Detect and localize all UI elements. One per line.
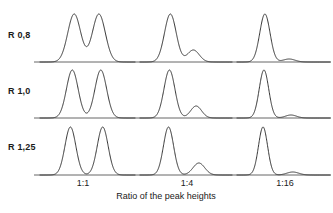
traces-group xyxy=(40,14,330,175)
trace-R125-1-1 xyxy=(40,127,135,175)
chromatogram-resolution-figure: R 0,8 R 1,0 R 1,25 1:1 1:4 1:16 Ratio of… xyxy=(0,0,333,213)
row-label-resolution-0: R 0,8 xyxy=(8,30,31,40)
row-label-resolution-2: R 1,25 xyxy=(8,142,36,152)
trace-R125-1-16 xyxy=(237,127,330,175)
x-axis-tick-label-2: 1:16 xyxy=(276,178,294,188)
trace-R10-1-4 xyxy=(140,70,232,118)
trace-R125-1-4 xyxy=(140,127,232,175)
trace-R10-1-16 xyxy=(237,70,330,118)
row-label-resolution-1: R 1,0 xyxy=(8,86,31,96)
x-axis-tick-label-1: 1:4 xyxy=(181,178,194,188)
trace-R08-1-16 xyxy=(237,14,330,62)
x-axis-tick-label-0: 1:1 xyxy=(77,178,90,188)
trace-R10-1-1 xyxy=(40,70,135,118)
trace-R08-1-1 xyxy=(40,14,135,62)
x-axis-title: Ratio of the peak heights xyxy=(116,191,216,201)
trace-R08-1-4 xyxy=(140,14,232,62)
